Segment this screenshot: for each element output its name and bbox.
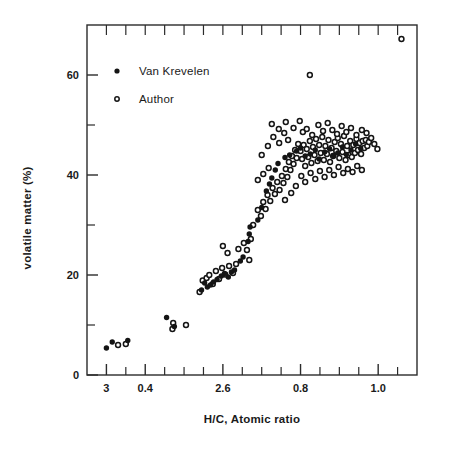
x-axis-minor-ticks <box>126 367 398 375</box>
data-point-van-krevelen <box>287 152 292 157</box>
data-point-van-krevelen <box>245 239 250 244</box>
data-point-van-krevelen <box>302 153 307 158</box>
data-point-author <box>299 174 304 179</box>
data-point-van-krevelen <box>247 224 252 229</box>
data-point-author <box>345 167 350 172</box>
data-point-van-krevelen <box>172 324 177 329</box>
data-point-author <box>265 144 270 149</box>
data-point-author <box>289 191 294 196</box>
data-point-author <box>261 200 266 205</box>
data-point-author <box>359 152 364 157</box>
data-point-author <box>339 124 344 129</box>
data-point-author <box>335 132 340 137</box>
data-point-author <box>323 144 328 149</box>
data-point-author <box>275 180 280 185</box>
data-point-author <box>271 135 276 140</box>
data-point-van-krevelen <box>353 141 358 146</box>
data-point-author <box>116 343 121 348</box>
data-point-van-krevelen <box>214 277 219 282</box>
chart-legend: Van Krevelen Author <box>114 65 209 105</box>
data-point-van-krevelen <box>327 146 332 151</box>
data-point-van-krevelen <box>125 338 130 343</box>
data-point-author <box>327 168 332 173</box>
data-point-author <box>317 169 322 174</box>
data-point-author <box>326 138 331 143</box>
data-point-author <box>310 133 315 138</box>
data-point-author <box>330 128 335 133</box>
data-point-author <box>341 171 346 176</box>
data-point-author <box>234 262 239 267</box>
data-point-author <box>343 158 348 163</box>
data-point-van-krevelen <box>308 151 313 156</box>
data-point-author <box>288 168 293 173</box>
data-point-author <box>225 251 230 256</box>
data-point-van-krevelen <box>110 339 115 344</box>
data-point-van-krevelen <box>267 181 272 186</box>
data-point-author <box>304 127 309 132</box>
data-point-author <box>259 153 264 158</box>
y-axis-tick-labels: 0204060 <box>67 69 79 381</box>
data-point-author <box>272 192 277 197</box>
data-point-author <box>286 138 291 143</box>
data-point-van-krevelen <box>282 155 287 160</box>
data-point-van-krevelen <box>298 145 303 150</box>
data-point-author <box>245 248 250 253</box>
data-point-author <box>399 37 404 42</box>
data-point-author <box>282 131 287 136</box>
y-tick-label: 40 <box>67 169 79 181</box>
x-tick-label: 2.6 <box>215 382 230 394</box>
data-point-van-krevelen <box>358 146 363 151</box>
data-series-author <box>116 37 404 348</box>
plot-frame <box>87 25 417 375</box>
data-point-author <box>321 158 326 163</box>
data-point-author <box>331 173 336 178</box>
data-point-van-krevelen <box>264 188 269 193</box>
data-point-van-krevelen <box>104 345 109 350</box>
data-point-author <box>294 156 299 161</box>
x-axis-tick-labels: 30.42.60.81.0 <box>103 382 385 394</box>
data-point-van-krevelen <box>232 267 237 272</box>
data-point-author <box>269 122 274 127</box>
legend-marker-author <box>115 97 119 101</box>
data-point-van-krevelen <box>322 149 327 154</box>
data-point-van-krevelen <box>255 217 260 222</box>
data-point-author <box>213 269 218 274</box>
data-point-author <box>281 181 286 186</box>
data-point-author <box>354 133 359 138</box>
data-point-author <box>372 142 377 147</box>
data-point-author <box>303 180 308 185</box>
data-point-author <box>277 188 282 193</box>
y-tick-label: 0 <box>73 369 79 381</box>
data-point-author <box>283 198 288 203</box>
data-point-author <box>309 161 314 166</box>
data-point-author <box>184 323 189 328</box>
data-point-author <box>355 164 360 169</box>
data-point-author <box>266 166 271 171</box>
data-point-author <box>279 174 284 179</box>
data-point-author <box>220 266 225 271</box>
data-point-author <box>261 172 266 177</box>
x-axis-top-ticks <box>106 25 397 35</box>
data-point-van-krevelen <box>247 231 252 236</box>
data-point-author <box>321 129 326 134</box>
data-point-van-krevelen <box>273 167 278 172</box>
data-point-author <box>307 73 312 78</box>
x-axis-title: H/C, Atomic ratio <box>204 413 300 425</box>
data-point-author <box>345 144 350 149</box>
data-point-van-krevelen <box>335 150 340 155</box>
data-point-author <box>255 178 260 183</box>
data-point-author <box>276 127 281 132</box>
data-point-author <box>283 120 288 125</box>
data-point-author <box>313 177 318 182</box>
y-axis-title: volatile matter (%) <box>21 167 33 270</box>
x-tick-label: 1.0 <box>371 382 386 394</box>
x-tick-label: 0.4 <box>138 382 154 394</box>
data-point-author <box>207 273 212 278</box>
data-point-author <box>285 175 290 180</box>
data-point-van-krevelen <box>199 287 204 292</box>
data-series-van-krevelen <box>104 141 364 350</box>
data-point-van-krevelen <box>259 205 264 210</box>
data-point-author <box>328 160 333 165</box>
data-point-van-krevelen <box>269 175 274 180</box>
data-point-author <box>359 128 364 133</box>
